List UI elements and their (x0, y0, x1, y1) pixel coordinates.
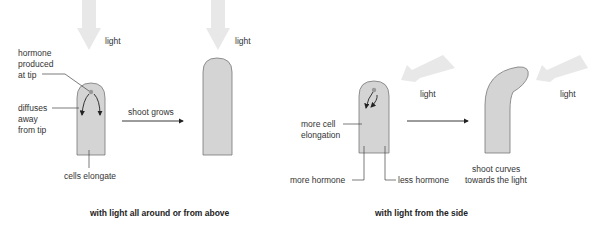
hormone-dot (89, 90, 93, 94)
less-hormone-label: less hormone (398, 175, 449, 186)
right-caption: with light from the side (375, 208, 468, 218)
light-label: light (560, 89, 576, 100)
shoot-grows-label: shoot grows (128, 107, 174, 118)
light-arrow-icon (77, 0, 101, 50)
diffuses-label-line3: from tip (18, 125, 46, 136)
light-label: light (235, 36, 251, 47)
curves-label-line1: shoot curves (472, 164, 520, 175)
diagram-graphics (0, 0, 596, 227)
light-label: light (105, 36, 121, 47)
elongation-label-line1: more cell (301, 119, 335, 130)
light-arrow-icon (401, 55, 455, 82)
phototropism-diagram: light light hormone produced at tip diff… (0, 0, 596, 227)
diffuses-label-line2: away (18, 114, 38, 125)
hormone-label-line1: hormone (18, 48, 52, 59)
more-hormone-label: more hormone (290, 175, 345, 186)
curves-label-line2: towards the light (465, 175, 527, 186)
diffuses-label-line1: diffuses (18, 103, 47, 114)
elongation-label-line2: elongation (301, 130, 340, 141)
light-label: light (420, 89, 436, 100)
shoot-tall (203, 58, 232, 155)
shoot-curved (485, 67, 528, 153)
hormone-label-line3: at tip (18, 70, 36, 81)
hormone-label-line2: produced (18, 59, 53, 70)
light-arrow-icon (206, 0, 230, 50)
left-caption: with light all around or from above (90, 208, 229, 218)
light-arrow-icon (536, 55, 588, 82)
cells-elongate-label: cells elongate (64, 171, 116, 182)
